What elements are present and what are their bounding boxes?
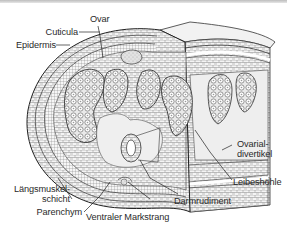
label-leibeshoehle: Leibeshöhle [233,177,281,187]
label-ovarialdivertikel-line2: divertikel [237,149,272,159]
label-ovarialdivertikel-line1: Ovarial- [237,139,268,149]
label-parenchym: Parenchym [20,207,82,217]
label-epidermis: Epidermis [14,40,56,50]
label-darmrudiment: Darmrudiment [174,196,231,206]
label-laengsmuskelschicht-line1: Längsmuskel- [4,184,70,194]
label-ovar: Ovar [90,14,110,24]
label-ventraler-markstrang: Ventraler Markstrang [86,212,169,222]
label-cuticula: Cuticula [35,27,78,37]
label-laengsmuskelschicht-line2: schicht [4,194,70,204]
